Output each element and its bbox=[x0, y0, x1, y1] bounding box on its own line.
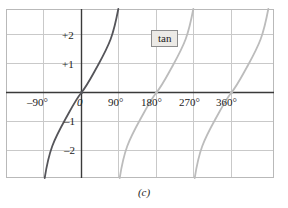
zero-marker-0 bbox=[80, 91, 83, 94]
x-tick-label-90: 90° bbox=[108, 97, 123, 108]
y-tick-label-plus1: +1 bbox=[62, 59, 74, 70]
x-tick-label-180: 180° bbox=[141, 97, 162, 108]
x-tick-label-360: 360° bbox=[216, 97, 237, 108]
x-tick-label-minus90: –90° bbox=[27, 97, 48, 108]
y-tick-label-minus1: –1 bbox=[64, 116, 75, 127]
zero-marker-360 bbox=[230, 91, 233, 94]
zero-marker-180 bbox=[155, 91, 158, 94]
legend-tan: tan bbox=[151, 30, 178, 47]
x-tick-label-270: 270° bbox=[179, 97, 200, 108]
y-tick-label-minus2: –2 bbox=[64, 145, 75, 156]
x-tick-label-zero: 0 bbox=[77, 97, 83, 108]
figure-caption: (c) bbox=[0, 186, 288, 198]
y-tick-label-plus2: +2 bbox=[62, 30, 74, 41]
figure-container: –90° 0 90° 180° 270° 360° +2 +1 –1 –2 ta… bbox=[0, 0, 288, 208]
